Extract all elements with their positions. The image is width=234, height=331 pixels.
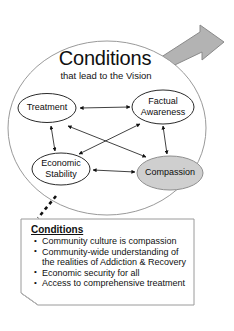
callout-box: Conditions Community culture is compassi…	[21, 219, 194, 305]
callout-heading: Conditions	[31, 224, 189, 235]
node-label-economic-stability: Economic Stability	[32, 158, 90, 179]
node-label-compassion: Compassion	[140, 167, 200, 178]
node-label-treatment: Treatment	[18, 102, 76, 113]
page-subtitle: that lead to the Vision	[36, 71, 176, 81]
callout-bullet-list: Community culture is compassionCommunity…	[29, 236, 189, 289]
page-title: Conditions	[40, 48, 170, 69]
node-label-factual-awareness: Factual Awareness	[132, 96, 194, 117]
callout-bullet-item: Economic security for all	[33, 268, 189, 278]
callout-bullet-item: Community culture is compassion	[33, 236, 189, 246]
callout-bullet-item: Community-wide understanding of the real…	[33, 247, 189, 267]
slide-canvas: Conditions that lead to the Vision Treat…	[0, 0, 234, 331]
callout-bullet-item: Access to comprehensive treatment	[33, 278, 189, 288]
